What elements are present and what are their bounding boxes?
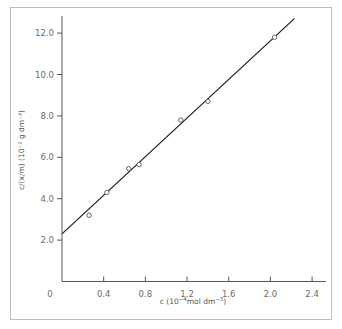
- x-tick-label: 0.8: [139, 289, 153, 299]
- y-tick-label: 12.0: [35, 28, 54, 38]
- data-point: [206, 99, 210, 103]
- x-axis-label: c (10−4mol dm−3): [160, 296, 227, 306]
- y-tick-label: 2.0: [40, 235, 54, 245]
- fit-line: [62, 19, 294, 234]
- y-tick-label: 6.0: [40, 152, 54, 162]
- data-point: [137, 162, 141, 166]
- scatter-chart: 00.40.81.21.62.02.42.04.06.08.010.012.0 …: [0, 0, 342, 329]
- x-tick-label: 2.4: [305, 289, 319, 299]
- y-tick-label: 8.0: [40, 111, 54, 121]
- x-tick-label: 0: [47, 289, 52, 299]
- data-point: [272, 35, 276, 39]
- data-points: [87, 35, 277, 217]
- axes: [62, 16, 326, 282]
- x-tick-label: 2.0: [264, 289, 278, 299]
- data-point: [105, 190, 109, 194]
- y-axis-label: c/(x/m) (10⁻² g dm⁻³): [17, 110, 26, 190]
- y-tick-label: 4.0: [40, 194, 54, 204]
- data-point: [87, 213, 91, 217]
- data-point: [126, 166, 130, 170]
- data-point: [179, 118, 183, 122]
- x-tick-label: 0.4: [97, 289, 111, 299]
- y-tick-label: 10.0: [35, 70, 54, 80]
- ticks: 00.40.81.21.62.02.42.04.06.08.010.012.0: [35, 28, 319, 298]
